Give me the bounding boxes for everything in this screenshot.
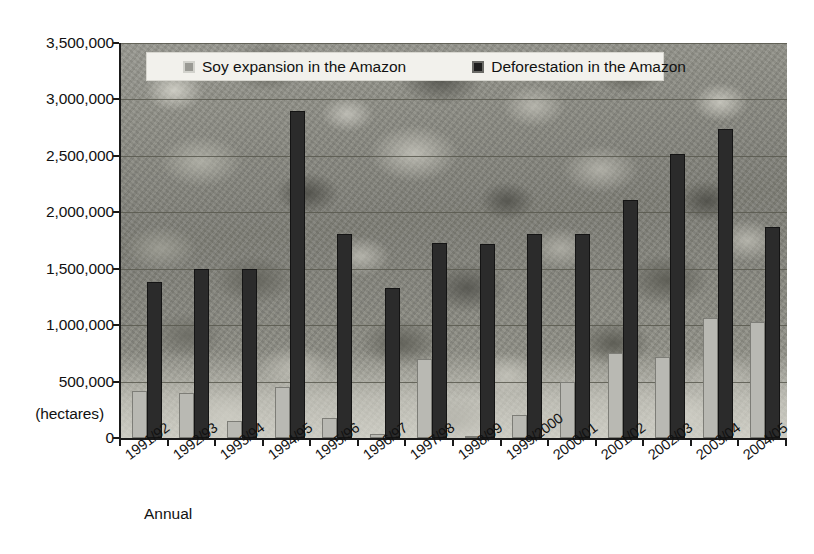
soy-legend-swatch-icon <box>183 61 195 73</box>
chart-legend: Soy expansion in the Amazon Deforestatio… <box>146 52 664 81</box>
x-axis-tick-mark <box>167 440 169 446</box>
legend-item-soy[interactable]: Soy expansion in the Amazon <box>183 58 406 76</box>
x-axis-tick-label: 2001/02 <box>598 419 648 462</box>
x-axis-tick-label: 1994/95 <box>265 419 315 462</box>
x-axis-tick-label: 2004/05 <box>740 419 790 462</box>
x-axis-tick-label: 1995/96 <box>312 419 362 462</box>
x-axis-tick-mark <box>119 440 121 446</box>
x-axis-tick-label: 2003/04 <box>693 419 743 462</box>
x-axis-tick-mark <box>357 440 359 446</box>
x-axis-tick-mark <box>309 440 311 446</box>
x-axis-tick-mark <box>595 440 597 446</box>
x-axis-caption: Annual <box>144 505 192 523</box>
x-axis-tick-mark <box>547 440 549 446</box>
x-axis-tick-mark <box>262 440 264 446</box>
chart-figure: 0500,0001,000,0001,500,0002,000,0002,500… <box>0 0 814 554</box>
x-axis-tick-label: 1997/98 <box>407 419 457 462</box>
legend-item-deforestation[interactable]: Deforestation in the Amazon <box>472 58 686 76</box>
x-axis-tick-label: 1993/94 <box>217 419 267 462</box>
x-axis-tick-mark <box>642 440 644 446</box>
x-axis-tick-mark <box>690 440 692 446</box>
x-axis-tick-mark <box>785 440 787 446</box>
x-axis-tick-mark <box>737 440 739 446</box>
x-axis-tick-mark <box>500 440 502 446</box>
x-axis-tick-label: 1998/99 <box>455 419 505 462</box>
x-axis-tick-mark <box>404 440 406 446</box>
x-axis: 1991/921992/931993/941994/951995/961996/… <box>0 0 814 554</box>
legend-label-deforestation: Deforestation in the Amazon <box>491 58 686 76</box>
x-axis-tick-label: 1991/92 <box>122 419 172 462</box>
x-axis-tick-label: 1992/93 <box>170 419 220 462</box>
deforestation-legend-swatch-icon <box>472 61 484 73</box>
x-axis-tick-label: 1996/97 <box>360 419 410 462</box>
x-axis-tick-mark <box>214 440 216 446</box>
x-axis-tick-mark <box>452 440 454 446</box>
legend-label-soy: Soy expansion in the Amazon <box>202 58 406 76</box>
x-axis-tick-label: 2002/03 <box>645 419 695 462</box>
